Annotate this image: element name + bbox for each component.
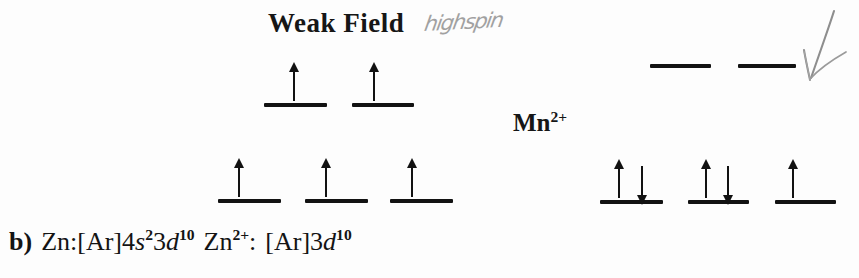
- config-neutral-d-coeff: 3: [153, 227, 166, 256]
- config-neutral-core: [Ar]: [77, 227, 122, 256]
- arrow-shaft: [411, 165, 413, 197]
- config-neutral-atom: Zn:: [41, 227, 77, 256]
- arrow-shaft: [618, 166, 620, 198]
- orbital-line: [352, 103, 414, 107]
- orbital-line: [650, 64, 711, 68]
- config-ion-core: [Ar]: [265, 227, 310, 256]
- weak-field-title: Weak Field: [268, 8, 404, 39]
- arrow-shaft: [727, 166, 729, 198]
- config-ion-colon: :: [249, 227, 256, 256]
- handwritten-highspin-note: highspin: [423, 8, 505, 36]
- orbital-line: [775, 200, 836, 204]
- config-ion-charge: 2+: [232, 226, 249, 243]
- config-ion-d-symbol: d: [323, 227, 336, 256]
- ion-label-symbol: Mn: [513, 109, 551, 136]
- config-ion-d-coeff: 3: [310, 227, 323, 256]
- ion-label-charge: 2+: [551, 108, 568, 125]
- arrow-shaft: [373, 69, 375, 101]
- orbital-line: [738, 64, 796, 68]
- arrow-shaft: [293, 69, 295, 101]
- arrow-head-icon: [637, 195, 647, 205]
- config-ion-atom: Zn: [204, 227, 233, 256]
- orbital-line: [688, 200, 749, 204]
- arrow-shaft: [792, 166, 794, 198]
- orbital-line: [390, 199, 453, 203]
- config-neutral-s-coeff: 4: [122, 227, 135, 256]
- config-item-label: b): [9, 227, 32, 256]
- arrow-shaft: [705, 166, 707, 198]
- config-neutral-s-exponent: 2: [145, 226, 153, 243]
- arrow-shaft: [325, 165, 327, 197]
- ion-label-mn: Mn2+: [513, 108, 567, 137]
- config-neutral-d-exponent: 10: [179, 226, 195, 243]
- config-neutral-s-symbol: s: [135, 227, 145, 256]
- orbital-line: [600, 200, 663, 204]
- config-neutral-d-symbol: d: [166, 227, 179, 256]
- electron-configuration-text: b)Zn:[Ar]4s23d10Zn2+:[Ar]3d10: [9, 226, 352, 257]
- handdrawn-down-left-arrow-icon: [794, 8, 856, 90]
- orbital-line: [264, 103, 327, 107]
- orbital-diagram-figure: Weak Field highspin: [0, 0, 859, 278]
- arrow-shaft: [641, 166, 643, 198]
- orbital-line: [305, 199, 368, 203]
- arrow-shaft: [238, 165, 240, 197]
- arrow-head-icon: [723, 195, 733, 205]
- config-ion-d-exponent: 10: [336, 226, 352, 243]
- orbital-line: [218, 199, 281, 203]
